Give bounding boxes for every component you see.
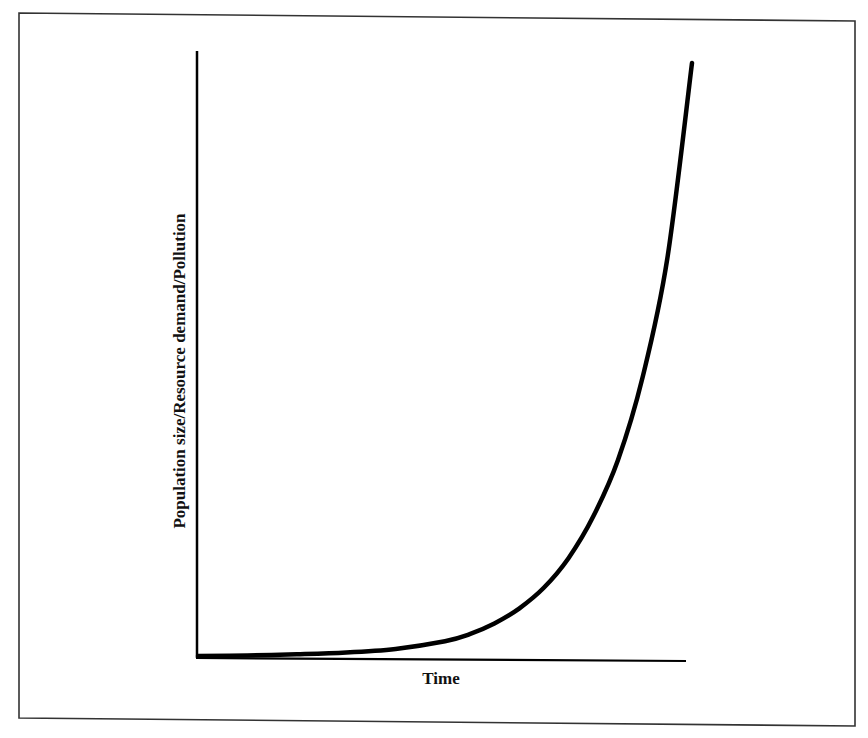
- y-axis-label: Population size/Resource demand/Pollutio…: [170, 213, 189, 529]
- chart-figure: Time Population size/Resource demand/Pol…: [0, 0, 868, 738]
- figure-frame: [19, 13, 855, 726]
- x-axis-label: Time: [422, 669, 460, 688]
- growth-curve: [198, 63, 692, 656]
- x-axis: [196, 658, 686, 661]
